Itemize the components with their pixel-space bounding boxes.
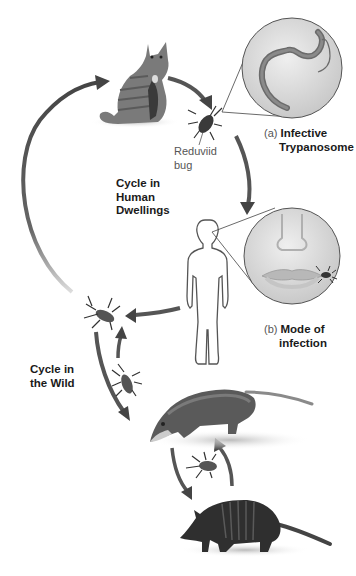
mouth-inset (212, 208, 340, 304)
label-b-prefix: (b) (264, 323, 277, 335)
arrow-cat-to-bug (168, 78, 212, 110)
label-b-line1: Mode of (281, 323, 325, 335)
diagram-canvas: Reduviid bug (a) Infective Trypanosome C… (0, 0, 356, 576)
arrow-wild-bug-up (115, 326, 127, 358)
label-a-prefix: (a) (264, 127, 277, 139)
mode-of-infection-label: (b) Mode of infection (264, 322, 327, 350)
bug-label-line2: bug (174, 158, 217, 172)
label-b-line2: infection (264, 337, 327, 351)
wild-cycle-line2: the Wild (30, 377, 75, 391)
human-cycle-line1: Cycle in (116, 177, 170, 191)
reduviid-bug-label: Reduviid bug (174, 144, 217, 172)
opossum-illustration (150, 389, 312, 450)
infective-trypanosome-label: (a) Infective Trypanosome (264, 126, 354, 154)
reduviid-bug-top (188, 106, 222, 145)
bug-label-line1: Reduviid (174, 144, 217, 158)
cycle-in-wild-label: Cycle in the Wild (30, 363, 75, 390)
arrow-bug-to-cat (23, 75, 110, 292)
human-cycle-line2: Human (116, 191, 170, 205)
human-cycle-line3: Dwellings (116, 204, 170, 218)
reduviid-bug-bottom (186, 452, 217, 478)
human-figure (187, 220, 228, 364)
reduviid-bug-left (84, 296, 120, 330)
label-a-line1: Infective (281, 127, 328, 139)
label-a-line2: Trypanosome (264, 141, 354, 155)
arrow-bug-to-human (236, 136, 255, 215)
cycle-human-dwellings-label: Cycle in Human Dwellings (116, 177, 170, 218)
diagram-art (0, 0, 356, 576)
reduviid-bug-wild (112, 364, 142, 396)
arrow-human-to-bug (125, 308, 180, 323)
wild-cycle-line1: Cycle in (30, 363, 75, 377)
trypanosome-inset (222, 18, 342, 118)
arrow-opossum-to-armadillo (172, 448, 192, 500)
armadillo-illustration (180, 500, 330, 557)
